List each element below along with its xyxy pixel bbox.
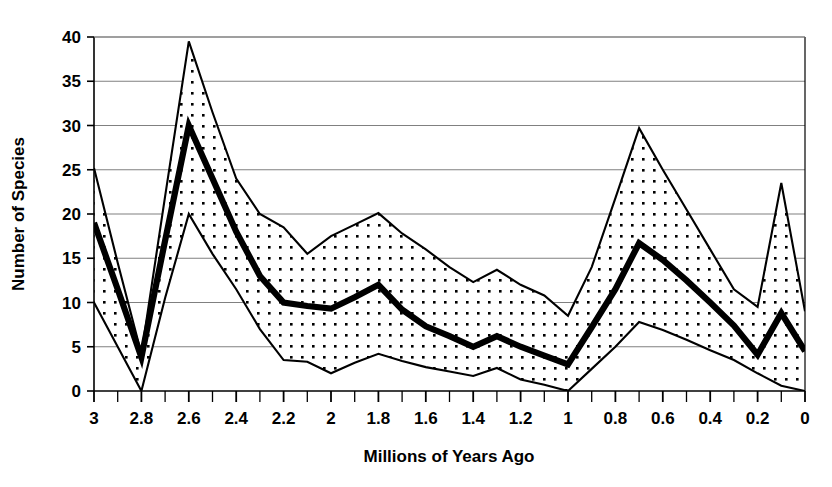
x-tick-label-0.4: 0.4 [698, 409, 722, 428]
x-tick-label-3: 3 [89, 409, 98, 428]
y-tick-label-40: 40 [62, 28, 81, 47]
x-tick-label-2.6: 2.6 [177, 409, 201, 428]
x-tick-label-2.2: 2.2 [272, 409, 296, 428]
x-tick-label-2.4: 2.4 [224, 409, 248, 428]
x-tick-label-1: 1 [563, 409, 572, 428]
y-tick-label-0: 0 [72, 382, 81, 401]
x-tick-label-0.2: 0.2 [746, 409, 770, 428]
species-range-area-chart: 32.82.62.42.221.81.61.41.210.80.60.40.20… [0, 0, 832, 487]
y-tick-label-15: 15 [62, 249, 81, 268]
y-axis-title: Number of Species [9, 137, 28, 291]
x-axis-title: Millions of Years Ago [364, 447, 535, 466]
x-tick-label-2.8: 2.8 [130, 409, 154, 428]
x-tick-label-0: 0 [800, 409, 809, 428]
y-tick-label-10: 10 [62, 294, 81, 313]
x-tick-label-1.6: 1.6 [414, 409, 438, 428]
x-tick-label-0.8: 0.8 [604, 409, 628, 428]
x-tick-label-2: 2 [326, 409, 335, 428]
y-tick-label-30: 30 [62, 117, 81, 136]
y-tick-label-25: 25 [62, 161, 81, 180]
x-tick-label-1.4: 1.4 [461, 409, 485, 428]
y-tick-label-35: 35 [62, 72, 81, 91]
chart-container: 32.82.62.42.221.81.61.41.210.80.60.40.20… [0, 0, 832, 487]
y-tick-label-5: 5 [72, 338, 81, 357]
x-tick-label-1.2: 1.2 [509, 409, 533, 428]
y-tick-label-20: 20 [62, 205, 81, 224]
x-tick-label-0.6: 0.6 [651, 409, 675, 428]
x-tick-label-1.8: 1.8 [367, 409, 391, 428]
